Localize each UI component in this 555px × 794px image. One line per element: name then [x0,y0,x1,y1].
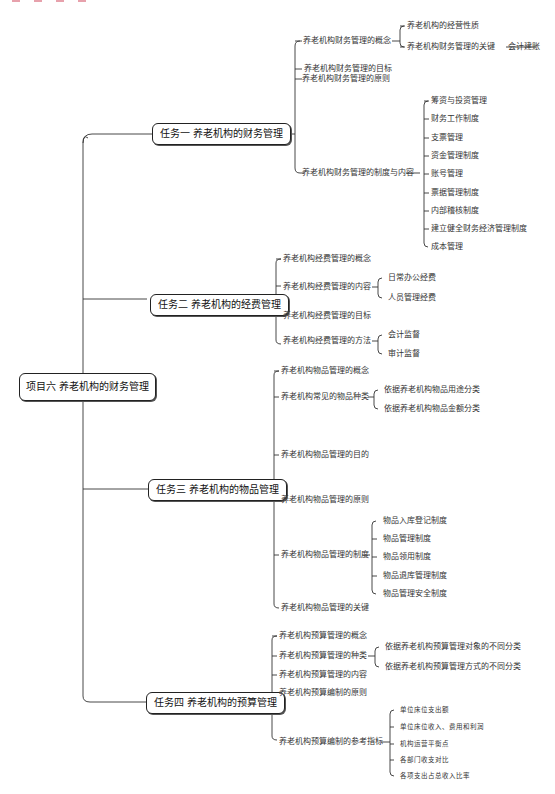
task-1-concept-sub-1[interactable]: 养老机构的经营性质 [407,21,479,31]
task-4-item-indicators[interactable]: 养老机构预算编制的参考指标 [279,737,383,747]
task-1-item-concept[interactable]: 养老机构财务管理的概念 [303,36,391,46]
mind-map: 项目六 养老机构的财务管理 任务一 养老机构的财务管理 养老机构财务管理的概念 … [0,0,555,794]
task-4-indicators-sub-5[interactable]: 各项支出占总收入比率 [400,772,470,780]
task-2-node[interactable]: 任务二 养老机构的经费管理 [150,294,289,316]
task-2-item-content[interactable]: 养老机构经费管理的内容 [283,282,371,292]
task-3-item-key[interactable]: 养老机构物品管理的关键 [281,603,369,613]
task-4-types-sub-1[interactable]: 依据养老机构预算管理对象的不同分类 [385,642,521,652]
task-3-system-sub-5[interactable]: 物品管理安全制度 [383,589,447,599]
task-1-system-sub-7[interactable]: 内部稽核制度 [431,206,479,216]
task-1-concept-key-extra[interactable]: 会计建账 [508,42,540,52]
task-1-item-goal[interactable]: 养老机构财务管理的目标 [304,64,392,74]
task-2-item-method[interactable]: 养老机构经费管理的方法 [283,336,371,346]
task-1-label: 任务一 养老机构的财务管理 [160,128,283,139]
task-3-item-principle[interactable]: 养老机构物品管理的原则 [281,495,369,505]
task-1-system-sub-8[interactable]: 建立健全财务经济管理制度 [431,224,527,234]
task-4-indicators-sub-3[interactable]: 机构运营平衡点 [400,740,449,748]
task-2-item-concept[interactable]: 养老机构经费管理的概念 [283,254,371,264]
task-4-types-sub-2[interactable]: 依据养老机构预算管理方式的不同分类 [385,662,521,672]
task-1-system-sub-2[interactable]: 财务工作制度 [431,114,479,124]
task-3-types-sub-1[interactable]: 依据养老机构物品用途分类 [384,385,480,395]
task-3-item-types[interactable]: 养老机构常见的物品种类 [281,392,369,402]
task-4-indicators-sub-2[interactable]: 单位床位收入、费用和利润 [400,723,484,731]
task-2-method-sub-2[interactable]: 审计监督 [388,349,420,359]
task-2-content-sub-2[interactable]: 人员管理经费 [388,293,436,303]
task-3-system-sub-3[interactable]: 物品领用制度 [383,552,431,562]
root-label: 项目六 养老机构的财务管理 [26,381,149,392]
task-3-item-system[interactable]: 养老机构物品管理的制度 [281,550,369,560]
task-1-item-system[interactable]: 养老机构财务管理的制度与内容 [302,168,414,178]
task-1-item-principle[interactable]: 养老机构财务管理的原则 [302,74,390,84]
task-1-system-sub-9[interactable]: 成本管理 [431,242,463,252]
task-4-indicators-sub-4[interactable]: 各部门收支对比 [400,756,449,764]
task-4-indicators-sub-1[interactable]: 单位床位支出额 [400,706,449,714]
task-2-label: 任务二 养老机构的经费管理 [158,299,281,310]
task-1-node[interactable]: 任务一 养老机构的财务管理 [152,123,291,145]
task-1-system-sub-6[interactable]: 票据管理制度 [431,188,479,198]
task-3-system-sub-1[interactable]: 物品入库登记制度 [383,516,447,526]
task-3-node[interactable]: 任务三 养老机构的物品管理 [148,479,287,501]
task-1-system-sub-1[interactable]: 筹资与投资管理 [431,96,487,106]
task-3-label: 任务三 养老机构的物品管理 [156,484,279,495]
task-2-content-sub-1[interactable]: 日常办公经费 [388,273,436,283]
task-3-system-sub-2[interactable]: 物品管理制度 [383,534,431,544]
task-3-types-sub-2[interactable]: 依据养老机构物品金额分类 [384,404,480,414]
task-4-node[interactable]: 任务四 养老机构的预算管理 [146,692,285,714]
task-1-system-sub-5[interactable]: 账号管理 [431,169,463,179]
task-4-item-concept[interactable]: 养老机构预算管理的概念 [279,631,367,641]
task-4-label: 任务四 养老机构的预算管理 [154,697,277,708]
task-1-concept-sub-2[interactable]: 养老机构财务管理的关键 [407,42,495,52]
task-4-item-content[interactable]: 养老机构预算管理的内容 [279,670,367,680]
task-3-system-sub-4[interactable]: 物品退库管理制度 [383,571,447,581]
task-1-system-sub-4[interactable]: 资金管理制度 [431,151,479,161]
task-1-system-sub-3[interactable]: 支票管理 [431,133,463,143]
root-node[interactable]: 项目六 养老机构的财务管理 [19,373,156,401]
task-3-item-concept[interactable]: 养老机构物品管理的概念 [281,366,369,376]
task-2-item-goal[interactable]: 养老机构经费管理的目标 [283,311,371,321]
task-4-item-types[interactable]: 养老机构预算管理的种类 [279,651,367,661]
task-4-item-principle[interactable]: 养老机构预算编制的原则 [279,688,367,698]
task-3-item-purpose[interactable]: 养老机构物品管理的目的 [281,450,369,460]
task-2-method-sub-1[interactable]: 会计监督 [388,330,420,340]
